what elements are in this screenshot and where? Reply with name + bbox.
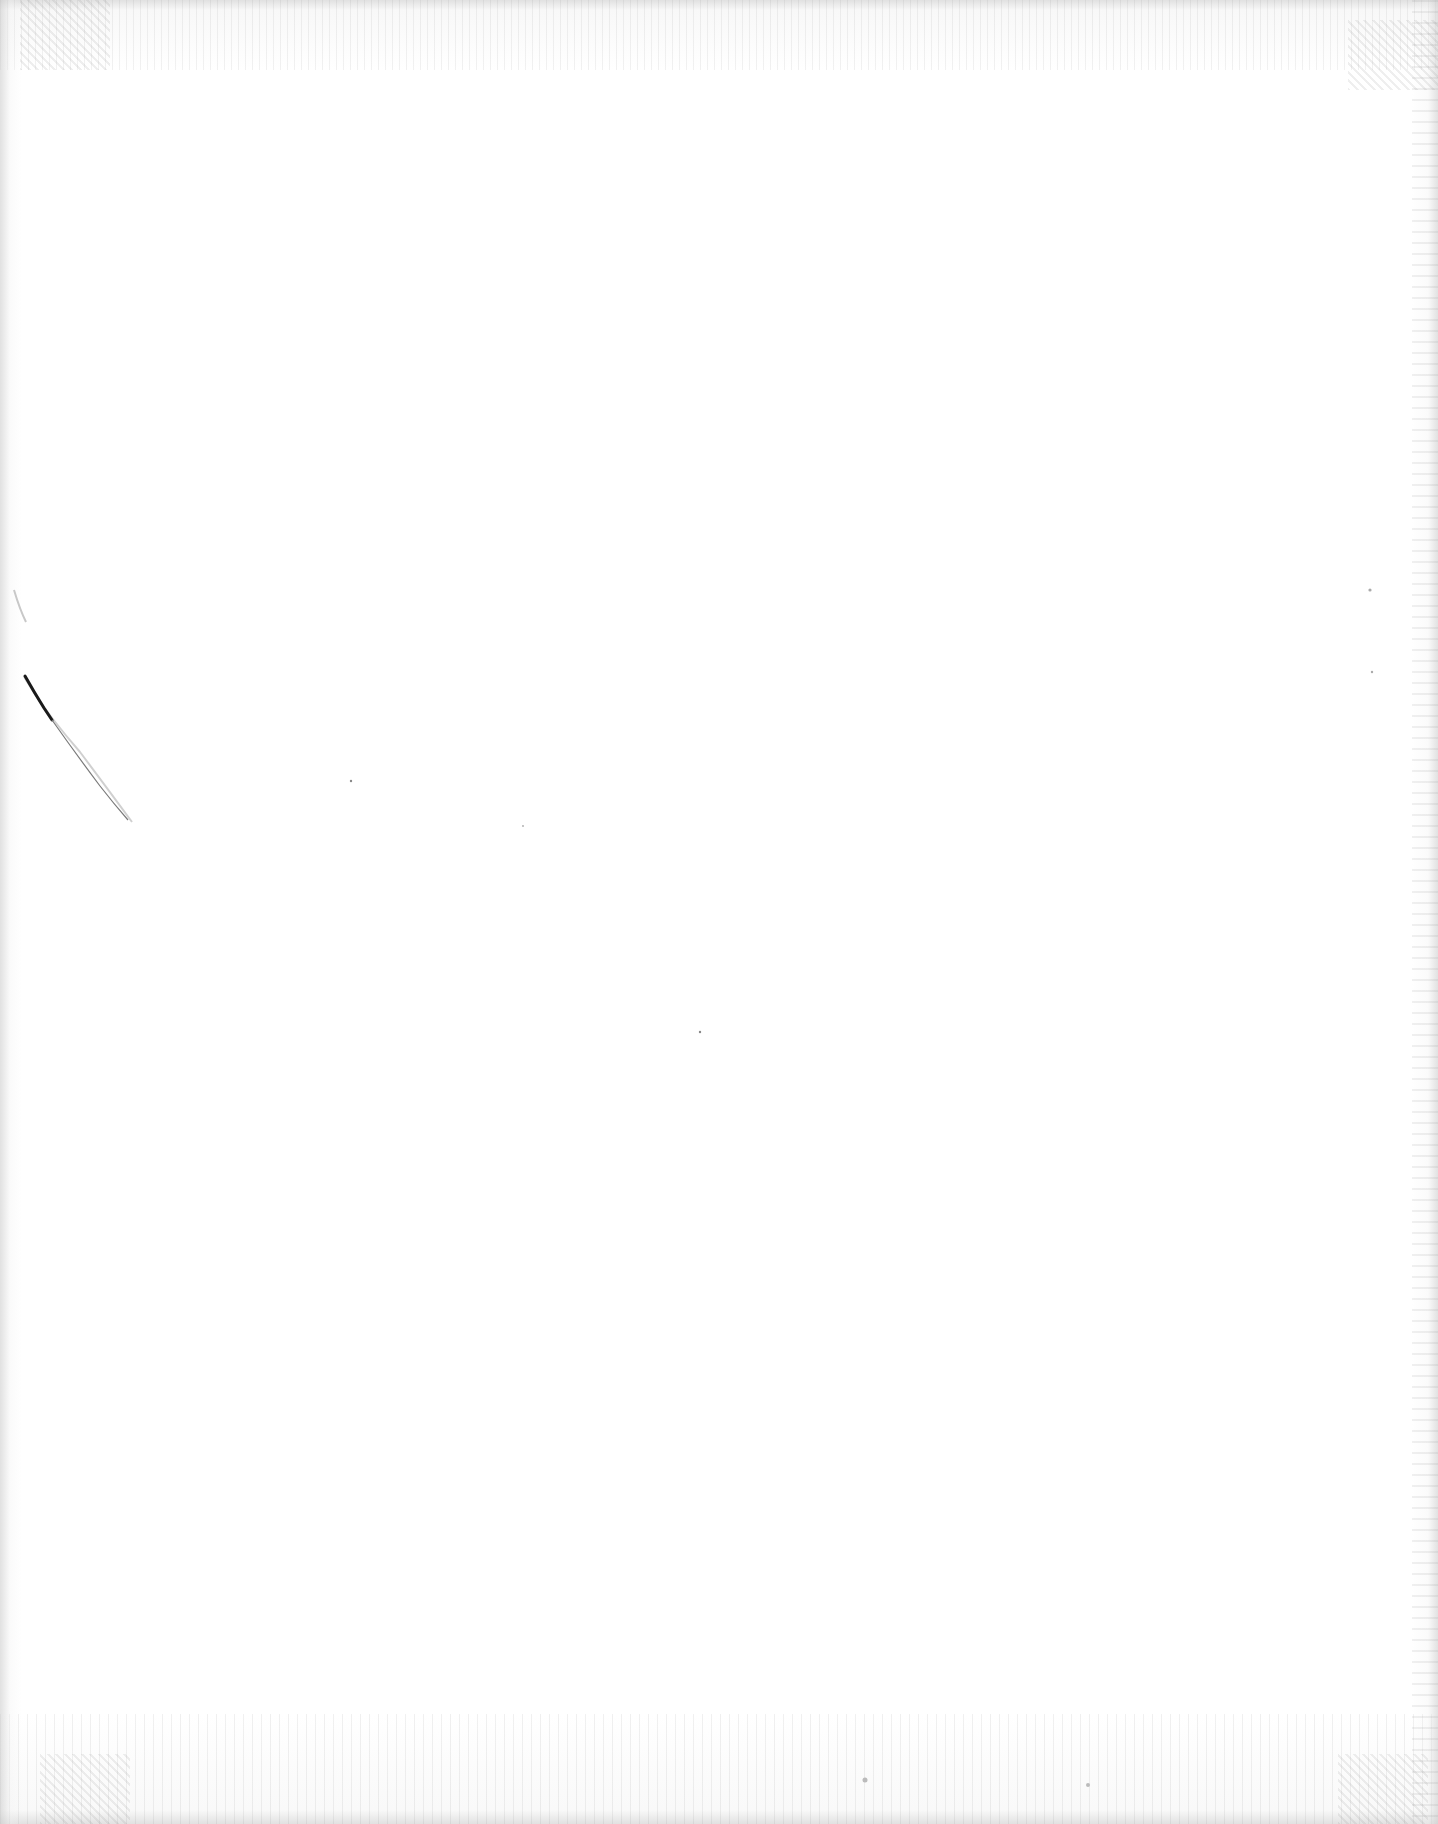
scan-noise-corner-bottom-right bbox=[1338, 1754, 1428, 1824]
scan-noise-corner-top-left bbox=[20, 0, 110, 70]
scan-noise-bottom-edge bbox=[0, 1714, 1438, 1824]
scan-noise-corner-bottom-left bbox=[40, 1754, 130, 1824]
scan-noise-right-edge bbox=[1412, 0, 1438, 1824]
blank-document-page bbox=[0, 0, 1438, 1824]
scan-noise-corner-top-right bbox=[1348, 20, 1438, 90]
curved-stroke-mark bbox=[0, 0, 1438, 1824]
scan-shadow-left-edge bbox=[0, 0, 22, 1824]
scan-noise-top-edge bbox=[0, 0, 1438, 70]
